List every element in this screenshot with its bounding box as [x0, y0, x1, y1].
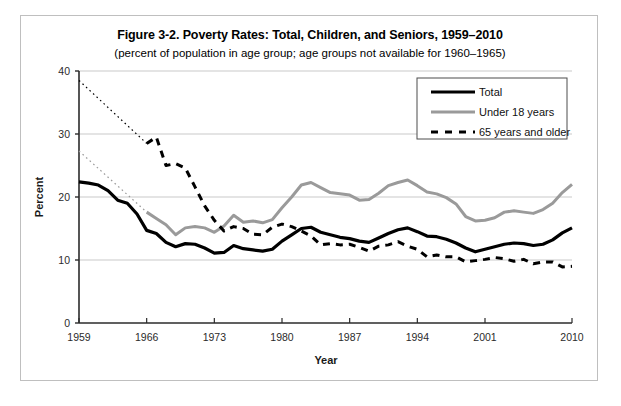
y-axis-label: Percent [33, 176, 45, 217]
x-tick-label-2001: 2001 [473, 331, 497, 343]
legend-label-total: Total [479, 86, 502, 98]
series-line-under-18-years [147, 180, 572, 235]
legend-label-65-years-and-older: 65 years and older [479, 126, 570, 138]
x-axis-label: Year [314, 354, 338, 366]
x-tick-label-1994: 1994 [406, 331, 430, 343]
y-axis-ticks: 010203040 [58, 65, 79, 329]
x-tick-label-2010: 2010 [560, 331, 584, 343]
x-tick-label-1959: 1959 [67, 331, 91, 343]
x-tick-label-1966: 1966 [135, 331, 159, 343]
figure-container: Figure 3-2. Poverty Rates: Total, Childr… [20, 15, 598, 381]
legend-label-under-18-years: Under 18 years [479, 106, 555, 118]
chart-legend: TotalUnder 18 years65 years and older [417, 78, 570, 139]
y-tick-label-10: 10 [58, 254, 70, 266]
y-tick-label-20: 20 [58, 191, 70, 203]
x-tick-label-1973: 1973 [203, 331, 227, 343]
poverty-rates-line-chart: 010203040 195919661973198019871994200120… [21, 16, 599, 382]
series-line-65-years-and-older [147, 137, 572, 267]
x-axis-ticks: 19591966197319801987199420012010 [67, 318, 584, 343]
y-tick-label-30: 30 [58, 128, 70, 140]
x-tick-label-1980: 1980 [270, 331, 294, 343]
interpolated-segment-under-18-years [79, 151, 147, 212]
y-tick-label-40: 40 [58, 65, 70, 77]
x-tick-label-1987: 1987 [338, 331, 362, 343]
y-tick-label-0: 0 [64, 317, 70, 329]
